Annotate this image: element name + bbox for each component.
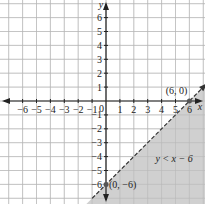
inequality-label: y < x − 6 [154, 153, 192, 164]
x-tick-label: −3 [59, 104, 70, 115]
x-tick-label: −6 [17, 104, 28, 115]
point-marker [187, 99, 192, 104]
y-tick-label: −6 [91, 179, 102, 190]
y-axis-label: y [98, 0, 104, 10]
y-tick-label: −3 [91, 137, 102, 148]
y-tick-label: −4 [91, 151, 102, 162]
x-tick-label: 2 [131, 104, 136, 115]
y-tick-label: 3 [97, 54, 102, 65]
x-tick-label: 3 [145, 104, 150, 115]
y-tick-label: 2 [97, 68, 102, 79]
y-tick-label: −2 [91, 123, 102, 134]
inequality-graph: −6−5−4−3−2−1123456654321−1−2−3−4−5−60xy(… [0, 0, 205, 204]
y-tick-label: −5 [91, 165, 102, 176]
x-axis-left-arrow-icon [2, 98, 10, 104]
x-axis-label: x [197, 101, 203, 112]
y-tick-label: 4 [97, 40, 102, 51]
point-marker [104, 182, 109, 187]
y-tick-label: 1 [97, 82, 102, 93]
x-tick-label: 1 [117, 104, 122, 115]
x-tick-label: 6 [187, 104, 192, 115]
x-tick-label: 5 [173, 104, 178, 115]
y-axis-up-arrow-icon [103, 2, 109, 10]
x-tick-label: 4 [159, 104, 164, 115]
point-label-6-0: (6, 0) [166, 85, 188, 97]
y-tick-label: 6 [97, 12, 102, 23]
coordinate-plane: −6−5−4−3−2−1123456654321−1−2−3−4−5−60xy(… [0, 0, 205, 204]
y-tick-label: 5 [97, 26, 102, 37]
origin-label: 0 [99, 103, 104, 114]
shaded-region [0, 45, 205, 204]
point-label-0-neg6: (0, −6) [109, 179, 136, 191]
x-tick-label: −5 [31, 104, 42, 115]
x-tick-label: −4 [45, 104, 56, 115]
x-tick-label: −2 [73, 104, 84, 115]
